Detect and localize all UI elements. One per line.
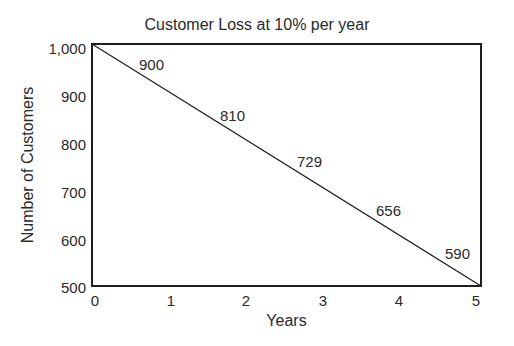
y-tick-1000: 1,000 <box>48 40 86 57</box>
data-line <box>92 44 481 286</box>
y-tick-500: 500 <box>61 279 86 296</box>
y-tick-800: 800 <box>61 136 86 153</box>
data-label-810: 810 <box>220 107 245 124</box>
x-tick-0: 0 <box>85 292 105 309</box>
x-axis-label: Years <box>91 312 482 330</box>
y-tick-900: 900 <box>61 88 86 105</box>
x-tick-1: 1 <box>161 292 181 309</box>
data-label-656: 656 <box>376 202 401 219</box>
y-tick-600: 600 <box>61 232 86 249</box>
y-tick-700: 700 <box>61 184 86 201</box>
data-label-729: 729 <box>297 153 322 170</box>
x-tick-5: 5 <box>466 292 486 309</box>
x-tick-2: 2 <box>236 292 256 309</box>
x-tick-3: 3 <box>313 292 333 309</box>
data-label-900: 900 <box>139 56 164 73</box>
data-label-590: 590 <box>445 245 470 262</box>
y-axis-label: Number of Customers <box>19 87 37 244</box>
x-tick-4: 4 <box>389 292 409 309</box>
